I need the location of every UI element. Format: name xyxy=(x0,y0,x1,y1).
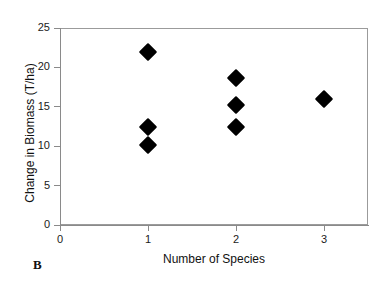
y-axis-title: Change in Biomass (T/ha) xyxy=(23,33,37,233)
biomass-species-scatter-figure: 05101520250123 Change in Biomass (T/ha) … xyxy=(0,0,387,284)
x-axis-tick-label: 0 xyxy=(35,234,85,245)
x-axis-tick xyxy=(236,225,237,231)
x-axis-tick xyxy=(148,225,149,231)
y-axis-tick xyxy=(54,28,60,29)
panel-label: B xyxy=(33,258,42,271)
y-axis-tick-label: 25 xyxy=(0,22,50,33)
y-axis-tick xyxy=(54,67,60,68)
x-axis-tick-label: 2 xyxy=(211,234,261,245)
x-axis-tick-label: 3 xyxy=(299,234,349,245)
y-axis-tick xyxy=(54,185,60,186)
y-axis-tick xyxy=(54,106,60,107)
x-axis-tick-label: 1 xyxy=(123,234,173,245)
y-axis-tick xyxy=(54,146,60,147)
x-axis-title: Number of Species xyxy=(60,252,368,266)
x-axis-tick xyxy=(60,225,61,231)
x-axis-tick xyxy=(324,225,325,231)
y-axis-line xyxy=(60,28,61,226)
plot-area xyxy=(60,28,368,225)
